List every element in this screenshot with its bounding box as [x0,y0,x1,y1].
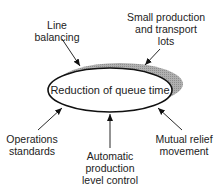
arrow-line-balancing [62,39,80,66]
arrow-mutual-relief [158,108,182,130]
factor-small-lots: Small production and transport lots [118,11,214,47]
arrow-small-lots [145,49,160,65]
arrow-operations-standards [38,108,62,130]
diagram-canvas: Reduction of queue time Line balancing S… [0,0,218,191]
factor-mutual-relief: Mutual relief movement [150,133,218,157]
factor-line-balancing: Line balancing [22,19,92,43]
center-label: Reduction of queue time [48,84,172,96]
factor-automatic-control: Automatic production level control [70,150,150,186]
factor-operations-standards: Operations standards [0,133,64,157]
